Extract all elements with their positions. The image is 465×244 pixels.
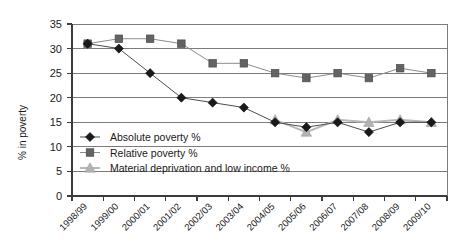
y-tick-label: 15 bbox=[50, 116, 62, 128]
y-tick-label: 5 bbox=[56, 165, 62, 177]
y-tick-label: 0 bbox=[56, 190, 62, 202]
data-point-marker bbox=[115, 35, 123, 43]
x-tick-label: 2009/10 bbox=[401, 201, 433, 233]
data-point-marker bbox=[365, 74, 373, 82]
legend-marker-swatch bbox=[86, 149, 94, 157]
x-tick-label: 1999/00 bbox=[88, 201, 120, 233]
data-point-marker bbox=[428, 69, 436, 77]
data-point-marker bbox=[303, 74, 311, 82]
legend-item: Material deprivation and low income % bbox=[80, 162, 290, 174]
x-axis bbox=[72, 196, 447, 201]
data-point-marker bbox=[396, 64, 404, 72]
y-tick-label: 10 bbox=[50, 141, 62, 153]
x-tick-label: 2008/09 bbox=[369, 201, 401, 233]
y-axis-tick-labels: 05101520253035 bbox=[50, 18, 62, 202]
x-tick-label: 2000/01 bbox=[119, 201, 151, 233]
x-tick-label: 2001/02 bbox=[151, 201, 183, 233]
legend-item-label: Material deprivation and low income % bbox=[110, 162, 290, 174]
x-tick-label: 2002/03 bbox=[182, 201, 214, 233]
x-axis-tick-labels: 1998/991999/002000/012001/022002/032003/… bbox=[57, 201, 433, 233]
legend-item-label: Relative poverty % bbox=[110, 147, 198, 159]
y-tick-label: 25 bbox=[50, 67, 62, 79]
poverty-trend-chart: % in poverty 05101520253035 1998/991999/… bbox=[0, 0, 465, 244]
x-tick-label: 2007/08 bbox=[338, 201, 370, 233]
x-tick-label: 2005/06 bbox=[276, 201, 308, 233]
x-tick-label: 2003/04 bbox=[213, 201, 245, 233]
data-point-marker bbox=[178, 40, 186, 48]
data-point-marker bbox=[209, 60, 217, 68]
data-point-marker bbox=[334, 69, 342, 77]
data-point-marker bbox=[146, 35, 154, 43]
x-tick-label: 2004/05 bbox=[244, 201, 276, 233]
y-tick-label: 35 bbox=[50, 18, 62, 30]
x-tick-label: 2006/07 bbox=[307, 201, 339, 233]
y-tick-label: 30 bbox=[50, 43, 62, 55]
y-tick-label: 20 bbox=[50, 92, 62, 104]
legend-item-label: Absolute poverty % bbox=[110, 131, 200, 143]
data-point-marker bbox=[271, 69, 279, 77]
chart-canvas: 05101520253035 1998/991999/002000/012001… bbox=[0, 0, 465, 244]
y-axis bbox=[67, 24, 72, 196]
x-tick-label: 1998/99 bbox=[57, 201, 89, 233]
data-point-marker bbox=[240, 60, 248, 68]
